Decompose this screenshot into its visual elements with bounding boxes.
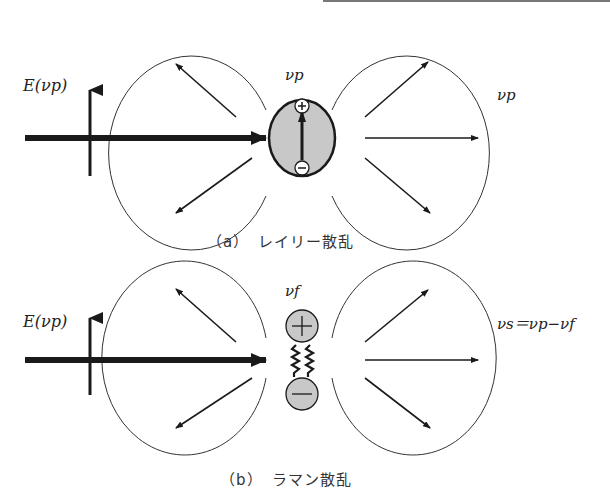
caption-b: （b） ラマン散乱 (220, 468, 352, 489)
scattered-label-a: νp (497, 86, 516, 104)
left-lobe (109, 56, 266, 250)
panel-b (25, 261, 496, 455)
spring-icon (292, 345, 299, 377)
right-lobe (332, 261, 496, 455)
field-label-b: E(νp) (23, 312, 67, 331)
scattering-diagram (0, 0, 610, 504)
spring-icon (306, 345, 313, 377)
center-label-a: νp (285, 66, 304, 84)
caption-a: （a） レイリー散乱 (207, 230, 354, 251)
spring-coupled-charges (286, 310, 318, 410)
field-label-a: E(νp) (23, 76, 67, 95)
scattered-label-b: νs＝νp−νf (497, 312, 575, 333)
panel-a (25, 56, 489, 250)
dipole-particle (269, 99, 335, 176)
center-label-b: νf (285, 282, 300, 300)
right-lobe (332, 56, 489, 250)
